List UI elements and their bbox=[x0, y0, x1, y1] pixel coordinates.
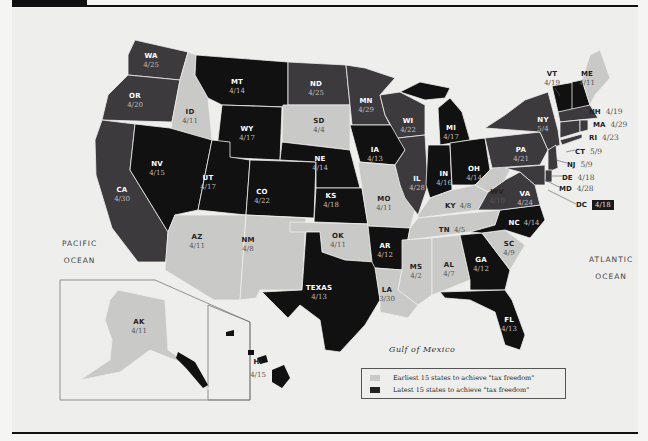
atlantic-ocean-label: ATLANTICOCEAN bbox=[589, 252, 633, 285]
label-hi: HI4/15 bbox=[250, 358, 266, 380]
pacific-ocean-label: PACIFICOCEAN bbox=[62, 236, 97, 269]
legend-label-earliest: Earliest 15 states to achieve "tax freed… bbox=[393, 374, 534, 382]
label-or: OR4/20 bbox=[127, 92, 143, 110]
state-az[interactable] bbox=[165, 215, 246, 300]
label-nd: ND4/25 bbox=[308, 80, 324, 98]
label-ks: KS4/18 bbox=[323, 192, 339, 210]
label-ms: MS4/2 bbox=[410, 263, 422, 281]
state-de[interactable] bbox=[545, 170, 552, 182]
state-ks[interactable] bbox=[314, 188, 368, 224]
legend-label-latest: Latest 15 states to achieve "tax freedom… bbox=[393, 386, 529, 394]
label-nm: NM4/8 bbox=[241, 236, 254, 254]
legend-swatch-light bbox=[370, 375, 380, 381]
label-wa: WA4/25 bbox=[143, 52, 159, 70]
label-nh: NH4/19 bbox=[589, 107, 623, 116]
label-sd: SD4/4 bbox=[313, 117, 324, 135]
label-ok: OK4/11 bbox=[330, 232, 346, 250]
label-tn: TN4/5 bbox=[439, 225, 465, 235]
label-co: CO4/22 bbox=[254, 188, 270, 206]
label-ky: KY4/8 bbox=[445, 201, 471, 211]
legend: Earliest 15 states to achieve "tax freed… bbox=[361, 368, 566, 399]
label-mn: MN4/29 bbox=[358, 97, 374, 115]
label-dc: DC4/18 bbox=[576, 200, 614, 210]
label-sc: SC4/9 bbox=[503, 240, 514, 258]
inset-hawaii-frame bbox=[208, 305, 250, 400]
label-ny: NY5/4 bbox=[537, 116, 548, 134]
state-ak[interactable] bbox=[80, 290, 210, 390]
label-nc: NC4/14 bbox=[508, 218, 539, 228]
label-va: VA4/24 bbox=[517, 190, 533, 208]
label-fl: FL4/13 bbox=[501, 316, 517, 334]
label-al: AL4/7 bbox=[443, 261, 454, 279]
label-md: MD4/28 bbox=[559, 184, 594, 193]
state-nj[interactable] bbox=[548, 145, 558, 172]
label-vt: VT4/19 bbox=[544, 70, 560, 88]
ak-panhandle bbox=[176, 352, 208, 388]
legend-item-earliest: Earliest 15 states to achieve "tax freed… bbox=[370, 374, 534, 382]
label-nv: NV4/15 bbox=[149, 160, 165, 178]
label-ne: NE4/14 bbox=[312, 155, 328, 173]
label-mt: MT4/14 bbox=[229, 78, 245, 96]
label-oh: OH4/14 bbox=[466, 165, 482, 183]
label-nj: NJ5/9 bbox=[567, 160, 593, 169]
state-ri[interactable] bbox=[580, 120, 588, 132]
label-ia: IA4/13 bbox=[367, 146, 383, 164]
label-me: ME4/11 bbox=[579, 70, 595, 88]
label-il: IL4/28 bbox=[409, 175, 425, 193]
label-ct: CT5/9 bbox=[575, 147, 602, 156]
label-az: AZ4/11 bbox=[189, 233, 205, 251]
label-de: DE4/18 bbox=[562, 173, 594, 182]
bottom-rule bbox=[12, 432, 638, 434]
legend-swatch-dark bbox=[370, 387, 380, 393]
label-ri: RI4/23 bbox=[589, 133, 619, 142]
label-pa: PA4/21 bbox=[513, 146, 529, 164]
label-ut: UT4/17 bbox=[200, 174, 216, 192]
label-wi: WI4/22 bbox=[400, 117, 416, 135]
label-mo: MO4/11 bbox=[376, 195, 392, 213]
gulf-of-mexico-label: Gulf of Mexico bbox=[389, 345, 455, 354]
label-ma: MA4/29 bbox=[593, 120, 627, 129]
label-texas: TEXAS4/13 bbox=[306, 284, 332, 302]
label-in: IN4/16 bbox=[436, 170, 452, 188]
legend-item-latest: Latest 15 states to achieve "tax freedom… bbox=[370, 386, 529, 394]
label-ga: GA4/12 bbox=[473, 256, 489, 274]
label-la: LA3/30 bbox=[379, 286, 395, 304]
label-wv: WV4/10 bbox=[489, 188, 505, 206]
label-ak: AK4/11 bbox=[131, 318, 147, 336]
label-ca: CA4/30 bbox=[114, 186, 130, 204]
label-ar: AR4/12 bbox=[377, 242, 393, 260]
label-mi: MI4/17 bbox=[443, 124, 459, 142]
label-id: ID4/11 bbox=[182, 108, 198, 126]
label-wy: WY4/17 bbox=[239, 125, 255, 143]
